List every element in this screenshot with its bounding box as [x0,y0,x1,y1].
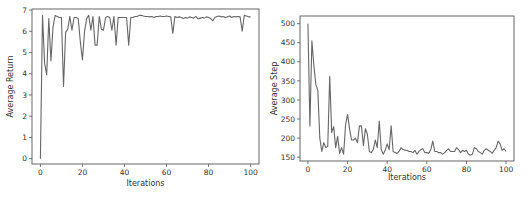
x-tick-label: 20 [343,165,353,174]
y-tick-label: 350 [281,77,296,86]
x-axis-label: Iterations [126,179,164,188]
x-tick-label: 0 [38,168,43,177]
average-return-chart: 02040608010001234567IterationsAverage Re… [0,0,263,200]
y-tick-label: 200 [281,134,296,143]
x-tick-label: 20 [78,168,88,177]
y-tick-label: 1 [22,133,27,142]
y-tick-label: 3 [22,91,27,100]
y-tick-label: 450 [281,38,296,47]
x-tick-label: 40 [120,168,130,177]
average-step-chart: 020406080100150200250300350400450500Iter… [263,0,527,200]
y-tick-label: 500 [281,19,296,28]
y-tick-label: 400 [281,57,296,66]
y-axis-label: Average Return [6,56,15,118]
y-tick-label: 4 [22,69,27,78]
y-tick-label: 5 [22,48,27,57]
x-tick-label: 80 [204,168,214,177]
series-line [40,15,250,158]
x-tick-label: 60 [162,168,172,177]
y-tick-label: 2 [22,112,27,121]
x-tick-label: 80 [462,165,472,174]
y-tick-label: 0 [22,154,27,163]
plot-frame [300,16,514,161]
x-tick-label: 0 [306,165,311,174]
average-step-plot: 020406080100150200250300350400450500Iter… [263,0,527,200]
x-tick-label: 100 [243,168,258,177]
y-tick-label: 250 [281,115,296,124]
y-axis-label: Average Step [270,62,279,116]
y-tick-label: 300 [281,96,296,105]
y-tick-label: 6 [22,27,27,36]
y-tick-label: 7 [22,6,27,15]
y-tick-label: 150 [281,153,296,162]
series-line [308,24,506,156]
x-tick-label: 100 [499,165,514,174]
x-axis-label: Iterations [388,173,426,182]
average-return-plot: 02040608010001234567IterationsAverage Re… [0,0,263,200]
